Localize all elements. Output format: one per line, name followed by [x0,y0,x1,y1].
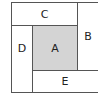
region-a: A [32,25,78,71]
region-b-label: B [84,30,92,43]
region-b: B [77,2,98,71]
region-a-label: A [51,42,59,55]
region-e: E [32,70,98,93]
region-e-label: E [62,75,69,88]
region-d-label: D [18,42,26,55]
region-c-label: C [41,8,49,21]
region-d: D [11,25,33,93]
region-c: C [11,2,78,26]
